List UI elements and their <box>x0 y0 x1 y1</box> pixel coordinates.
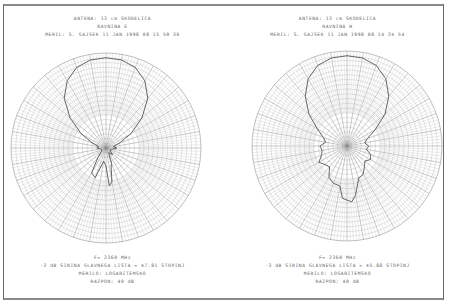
measurement-info: MERIL: S. GAJSEK 11 JAN 1998 08 15 59 36 <box>0 32 225 37</box>
scale-label: MERILO: LOGARITEMSKO <box>0 271 225 276</box>
polar-plot-e-plane <box>10 52 202 244</box>
panel-h-plane: ANTENA: 13 cm SKODELICA RAVNINA H MERIL:… <box>225 0 450 307</box>
scale-label: MERILO: LOGARITEMSKO <box>225 271 450 276</box>
beamwidth-label: -3 dB SIRINA GLAVNEGA LISTA = 45.88 STOP… <box>225 263 450 268</box>
polar-plot-h-plane <box>251 50 443 242</box>
frequency-label: F= 2360 MHz <box>0 255 225 260</box>
beamwidth-label: -3 dB SIRINA GLAVNEGA LISTA = 47.81 STOP… <box>0 263 225 268</box>
measurement-info: MERIL: S. GAJSEK 11 JAN 1998 08 14 24 54 <box>225 32 450 37</box>
panel-e-plane: ANTENA: 13 cm SKODELICA RAVNINA E MERIL:… <box>0 0 225 307</box>
range-label: RAZPON: 40 dB <box>225 279 450 284</box>
antenna-title: ANTENA: 13 cm SKODELICA <box>225 16 450 21</box>
frequency-label: F= 2360 MHz <box>225 255 450 260</box>
antenna-title: ANTENA: 13 cm SKODELICA <box>0 16 225 21</box>
range-label: RAZPON: 40 dB <box>0 279 225 284</box>
plane-label: RAVNINA H <box>225 24 450 29</box>
plane-label: RAVNINA E <box>0 24 225 29</box>
